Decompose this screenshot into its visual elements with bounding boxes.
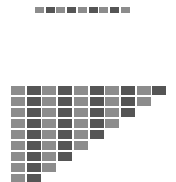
stair-tile bbox=[137, 86, 151, 95]
stair-tile bbox=[74, 119, 88, 128]
stair-tile bbox=[58, 152, 72, 161]
stair-tile bbox=[74, 86, 88, 95]
stair-tile bbox=[27, 152, 41, 161]
stair-tile bbox=[105, 108, 119, 117]
stair-tile bbox=[42, 130, 56, 139]
top-tile bbox=[121, 7, 130, 13]
stair-tile bbox=[42, 141, 56, 150]
stair-tile bbox=[121, 86, 135, 95]
stair-tile bbox=[11, 108, 25, 117]
stair-tile bbox=[90, 86, 104, 95]
stair-tile bbox=[27, 141, 41, 150]
stair-tile bbox=[90, 119, 104, 128]
stair-tile bbox=[11, 141, 25, 150]
stair-tile bbox=[105, 97, 119, 106]
stair-tile bbox=[74, 141, 88, 150]
stair-tile bbox=[42, 119, 56, 128]
stair-tile bbox=[58, 108, 72, 117]
stair-tile bbox=[42, 152, 56, 161]
stair-tile bbox=[74, 108, 88, 117]
stair-tile bbox=[58, 141, 72, 150]
stair-tile bbox=[105, 86, 119, 95]
top-tile bbox=[110, 7, 119, 13]
stair-tile bbox=[58, 130, 72, 139]
top-tile bbox=[67, 7, 76, 13]
stair-tile bbox=[27, 119, 41, 128]
stair-tile bbox=[27, 163, 41, 172]
stair-tile bbox=[11, 152, 25, 161]
stair-tile bbox=[152, 86, 166, 95]
stair-tile bbox=[11, 130, 25, 139]
stair-tile bbox=[90, 130, 104, 139]
stair-tile bbox=[11, 97, 25, 106]
stair-tile bbox=[74, 97, 88, 106]
top-tile bbox=[46, 7, 55, 13]
stair-tile bbox=[11, 119, 25, 128]
stair-tile bbox=[11, 163, 25, 172]
stair-tile bbox=[121, 97, 135, 106]
stair-tile bbox=[27, 108, 41, 117]
top-tile bbox=[56, 7, 65, 13]
top-tile bbox=[89, 7, 98, 13]
stair-tile bbox=[105, 119, 119, 128]
stair-tile bbox=[58, 97, 72, 106]
stair-tile bbox=[74, 130, 88, 139]
stair-tile bbox=[27, 97, 41, 106]
stair-tile bbox=[42, 163, 56, 172]
stair-tile bbox=[42, 108, 56, 117]
stair-tile bbox=[137, 97, 151, 106]
stair-tile bbox=[11, 174, 25, 182]
stair-tile bbox=[90, 108, 104, 117]
top-tile bbox=[78, 7, 87, 13]
stair-tile bbox=[121, 108, 135, 117]
stair-tile bbox=[90, 97, 104, 106]
top-tile bbox=[35, 7, 44, 13]
stair-tile bbox=[42, 97, 56, 106]
top-tile bbox=[99, 7, 108, 13]
stair-tile bbox=[11, 86, 25, 95]
stair-tile bbox=[58, 119, 72, 128]
stair-tile bbox=[42, 86, 56, 95]
stair-tile bbox=[27, 86, 41, 95]
stair-tile bbox=[27, 174, 41, 182]
stair-tile bbox=[58, 86, 72, 95]
stair-tile bbox=[27, 130, 41, 139]
